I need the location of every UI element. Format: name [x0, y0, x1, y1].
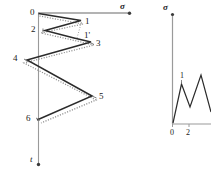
side-sigma-axis-arrow [171, 13, 174, 16]
side-peak-label-1: 1 [180, 72, 184, 80]
main-point-label-4: 4 [13, 54, 18, 63]
main-point-label-5: 5 [99, 92, 104, 101]
main-plot [24, 12, 131, 167]
main-point-label-1-prime: 1' [84, 31, 90, 40]
main-sigma-axis-arrow [128, 12, 131, 15]
main-time-axis-arrow [37, 163, 40, 166]
main-time-axis-label: t [30, 155, 33, 164]
side-sigma-axis-label: σ [163, 3, 168, 12]
main-point-label-1: 1 [85, 17, 90, 26]
side-tick-label-0: 0 [170, 129, 174, 137]
side-zigzag-path [173, 75, 211, 123]
main-point-label-3: 3 [96, 39, 101, 48]
main-point-label-6: 6 [26, 114, 31, 123]
point-5-tick [92, 96, 97, 98]
main-point-label-0: 0 [30, 8, 35, 17]
main-sigma-axis-label: σ [120, 2, 125, 11]
main-point-label-2: 2 [31, 25, 36, 34]
point-1-to-1prime-connector [77, 22, 82, 38]
side-tick-label-2: 2 [186, 129, 190, 137]
side-plot [171, 13, 211, 127]
